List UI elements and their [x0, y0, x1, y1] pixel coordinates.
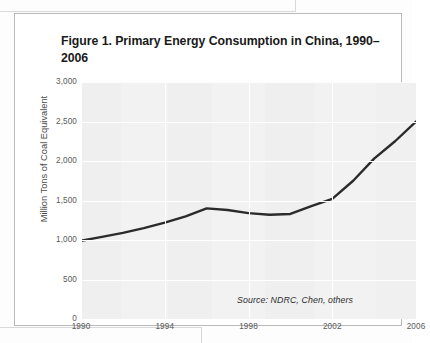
y-axis-title: Million Tons of Coal Equivalent	[39, 54, 49, 264]
gridline-vertical	[81, 82, 82, 319]
gridline-vertical	[332, 82, 333, 319]
page-rule-top	[0, 11, 296, 12]
plot-area	[81, 82, 416, 319]
gridline-vertical	[249, 82, 250, 319]
y-axis-tick-labels: 05001,0001,5002,0002,5003,000	[29, 14, 77, 343]
figure-title: Figure 1. Primary Energy Consumption in …	[61, 33, 391, 68]
x-axis-tick-label: 1990	[59, 322, 103, 331]
figure-container: Figure 1. Primary Energy Consumption in …	[14, 13, 402, 326]
x-axis-tick-label: 2002	[310, 322, 354, 331]
x-axis-tick-label: 1994	[143, 322, 187, 331]
source-note: Source: NDRC, Chen, others	[237, 295, 353, 305]
y-axis-tick-label: 500	[33, 275, 77, 284]
gridline-vertical	[165, 82, 166, 319]
x-axis-tick-label: 1998	[227, 322, 271, 331]
x-axis-tick-label: 2006	[394, 322, 430, 331]
page-rule-vertical-bottom	[201, 327, 202, 343]
page-rule-vertical-top	[295, 0, 296, 12]
